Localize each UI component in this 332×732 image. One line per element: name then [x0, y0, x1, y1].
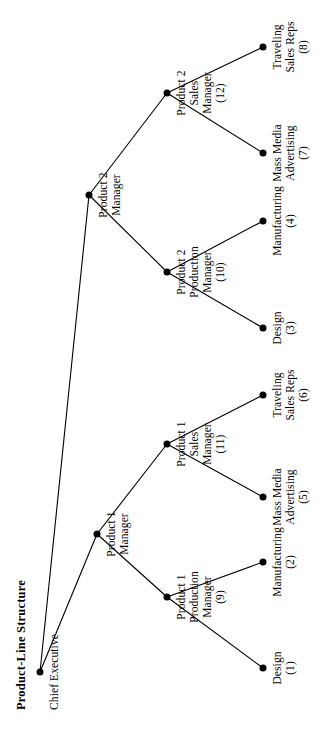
- org-node-label: Manufacturing (4): [271, 186, 297, 256]
- org-node-index: (8): [297, 21, 310, 72]
- org-chart-edges: [0, 0, 332, 732]
- org-chart-edge: [40, 195, 89, 672]
- org-node-index: (12): [214, 70, 227, 115]
- org-node-dot: [164, 90, 171, 97]
- org-node-dot: [86, 192, 93, 199]
- org-node-label: Product 2 Production Manager (10): [175, 246, 227, 297]
- org-node-index: (1): [284, 651, 297, 684]
- org-node-label: Design (3): [271, 311, 297, 344]
- org-node-dot: [164, 594, 171, 601]
- org-node-dot: [260, 559, 267, 566]
- org-node-index: (5): [297, 468, 310, 526]
- org-node-index: (3): [284, 311, 297, 344]
- org-node-label: Traveling Sales Reps (8): [271, 21, 310, 72]
- org-node-label: Manufacturing (2): [271, 527, 297, 597]
- org-chart-canvas: Chief ExecutiveProduct 1 ManagerProduct …: [0, 0, 332, 732]
- org-node-label: Product 1 Manager: [105, 511, 131, 556]
- org-node-index: (6): [297, 369, 310, 420]
- org-node-index: (10): [214, 246, 227, 297]
- org-node-index: (11): [214, 421, 227, 466]
- org-node-label: Product 1 Production Manager (9): [175, 571, 227, 622]
- org-node-dot: [260, 392, 267, 399]
- org-node-dot: [164, 441, 171, 448]
- org-node-index: (4): [284, 186, 297, 256]
- org-node-dot: [260, 44, 267, 51]
- org-node-label: Product 2 Sales Manager (12): [175, 70, 227, 115]
- org-node-label: Mass Media Advertising (7): [271, 124, 310, 182]
- chart-title: Product-Line Structure: [14, 580, 29, 710]
- org-node-dot: [260, 665, 267, 672]
- org-node-dot: [164, 269, 171, 276]
- product-line-structure-figure: Chief ExecutiveProduct 1 ManagerProduct …: [0, 0, 332, 732]
- org-node-index: (9): [214, 571, 227, 622]
- org-node-dot: [260, 150, 267, 157]
- org-node-dot: [260, 218, 267, 225]
- org-node-label: Mass Media Advertising (5): [271, 468, 310, 526]
- org-node-dot: [94, 531, 101, 538]
- org-node-dot: [260, 494, 267, 501]
- org-node-dot: [260, 325, 267, 332]
- org-node-label: Product 2 Manager: [97, 172, 123, 217]
- org-node-label: Chief Executive: [48, 634, 61, 710]
- org-node-index: (2): [284, 527, 297, 597]
- org-node-label: Traveling Sales Reps (6): [271, 369, 310, 420]
- org-node-label: Product 1 Sales Manager (11): [175, 421, 227, 466]
- org-node-dot: [37, 669, 44, 676]
- org-node-index: (7): [297, 124, 310, 182]
- org-node-label: Design (1): [271, 651, 297, 684]
